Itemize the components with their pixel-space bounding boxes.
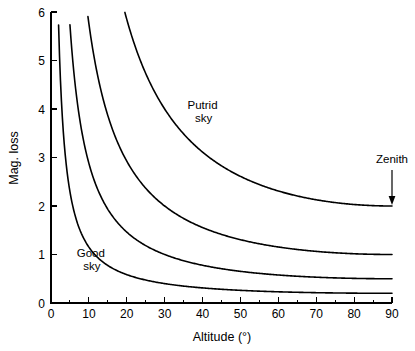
x-tick-label: 40 <box>196 307 210 321</box>
y-tick-label: 4 <box>38 103 45 117</box>
annotation-zenith: Zenith <box>376 153 408 205</box>
y-tick-label: 0 <box>38 297 45 311</box>
x-axis-title: Altitude (°) <box>193 330 252 344</box>
x-tick-label: 0 <box>48 307 55 321</box>
curve-putrid-sky <box>125 12 392 206</box>
x-tick-label: 60 <box>272 307 286 321</box>
x-tick-label: 20 <box>120 307 134 321</box>
annotations-group: PutridskyGoodskyZenith <box>77 99 408 272</box>
x-tick-label: 10 <box>82 307 96 321</box>
curve-curve-k1 <box>88 17 392 255</box>
axis-lines <box>51 12 392 303</box>
y-tick-label: 6 <box>38 6 45 20</box>
putrid-sky-label-line2: sky <box>195 112 213 124</box>
x-tick-label: 80 <box>347 307 361 321</box>
chart-figure: 01020304050607080900123456 PutridskyGood… <box>0 0 415 351</box>
good-sky-label-line2: sky <box>83 260 101 272</box>
x-tick-label: 90 <box>385 307 399 321</box>
good-sky-label-line1: Good <box>77 247 105 259</box>
chart-canvas: 01020304050607080900123456 PutridskyGood… <box>0 0 415 351</box>
zenith-label: Zenith <box>376 153 408 165</box>
data-curves-group <box>59 12 392 293</box>
putrid-sky-label-line1: Putrid <box>188 99 218 111</box>
y-tick-label: 2 <box>38 200 45 214</box>
x-tick-label: 30 <box>158 307 172 321</box>
y-axis-title: Mag. loss <box>7 131 21 185</box>
y-tick-label: 1 <box>38 248 45 262</box>
x-tick-label: 50 <box>234 307 248 321</box>
y-tick-label: 5 <box>38 54 45 68</box>
axes-group <box>51 12 392 303</box>
annotation-putrid-sky: Putridsky <box>188 99 218 124</box>
x-tick-label: 70 <box>310 307 324 321</box>
curve-curve-k05 <box>70 25 392 279</box>
y-tick-label: 3 <box>38 151 45 165</box>
zenith-arrow-head <box>389 196 396 205</box>
tick-marks-group <box>51 12 392 303</box>
